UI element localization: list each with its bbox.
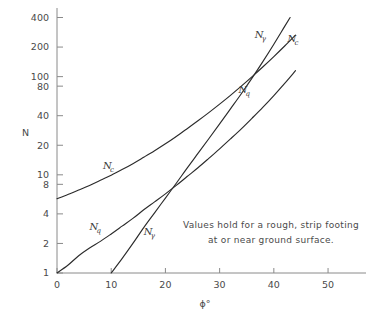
curve-label-Nc-1: Nc bbox=[102, 160, 114, 174]
y-tick-label-2: 2 bbox=[43, 238, 49, 249]
y-tick-label-20: 20 bbox=[37, 140, 49, 151]
y-tick-label-8: 8 bbox=[43, 179, 49, 190]
x-tick-label-50: 50 bbox=[322, 279, 334, 290]
x-tick-label-10: 10 bbox=[105, 279, 117, 290]
y-axis: 124810204080100200400 N bbox=[22, 8, 63, 278]
y-axis-title: N bbox=[22, 127, 29, 138]
footing-note: Values hold for a rough, strip footing a… bbox=[183, 220, 359, 245]
x-tick-label-0: 0 bbox=[54, 279, 60, 290]
y-tick-label-400: 400 bbox=[31, 12, 49, 23]
footing-note-line-1: Values hold for a rough, strip footing bbox=[183, 220, 359, 230]
curve-label-subscript: c bbox=[294, 39, 298, 47]
x-axis: 01020304050 ϕ° bbox=[54, 268, 366, 309]
curve-Nc bbox=[57, 35, 296, 199]
curve-label-subscript: q bbox=[246, 90, 251, 98]
y-tick-label-4: 4 bbox=[43, 208, 49, 219]
curve-label-Nc-2: Nc bbox=[286, 33, 298, 47]
y-axis-tick-labels: 124810204080100200400 bbox=[31, 12, 49, 278]
curve-label-subscript: q bbox=[97, 227, 102, 235]
y-tick-label-1: 1 bbox=[43, 267, 49, 278]
y-tick-label-200: 200 bbox=[31, 41, 49, 52]
y-tick-label-80: 80 bbox=[37, 81, 49, 92]
chart-svg: 124810204080100200400 N 01020304050 ϕ° N… bbox=[0, 0, 375, 319]
x-axis-tick-labels: 01020304050 bbox=[54, 279, 334, 290]
curve-label-subscript: γ bbox=[262, 35, 267, 43]
curve-label-Nq-1: Nq bbox=[89, 221, 102, 235]
curve-label-Ngamma-1: Nγ bbox=[143, 226, 156, 240]
x-tick-label-30: 30 bbox=[214, 279, 226, 290]
y-tick-label-100: 100 bbox=[31, 71, 49, 82]
y-tick-label-10: 10 bbox=[37, 169, 49, 180]
curve-label-Ngamma-2: Nγ bbox=[254, 29, 267, 43]
x-tick-label-20: 20 bbox=[159, 279, 171, 290]
curve-label-subscript: c bbox=[110, 166, 114, 174]
y-axis-ticks bbox=[57, 18, 63, 273]
x-tick-label-40: 40 bbox=[268, 279, 280, 290]
curve-labels: NcNcNqNqNγNγ bbox=[89, 29, 299, 240]
footing-note-line-2: at or near ground surface. bbox=[208, 235, 334, 245]
bearing-capacity-factors-chart: 124810204080100200400 N 01020304050 ϕ° N… bbox=[0, 0, 375, 319]
y-tick-label-40: 40 bbox=[37, 110, 49, 121]
curve-label-subscript: γ bbox=[151, 232, 156, 240]
x-axis-ticks bbox=[57, 268, 328, 273]
x-axis-title: ϕ° bbox=[199, 298, 210, 309]
